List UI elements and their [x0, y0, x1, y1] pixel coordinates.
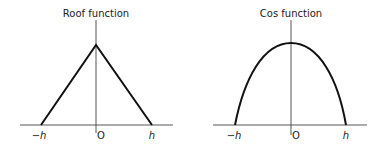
roof-function-curve: [41, 45, 152, 125]
cos-function-title: Cos function: [260, 8, 322, 19]
tick-h: h: [149, 130, 155, 141]
tick-minus-h: −h: [32, 130, 47, 141]
tick-origin: O: [97, 130, 105, 141]
tick-origin: O: [292, 130, 300, 141]
tick-h: h: [343, 130, 349, 141]
roof-function-panel: Roof function −h O h: [20, 8, 173, 141]
cos-function-curve: [235, 43, 346, 125]
roof-function-title: Roof function: [63, 8, 129, 19]
cos-function-panel: Cos function −h O h: [213, 8, 367, 141]
diagram-canvas: Roof function −h O h Cos function −h O h: [0, 0, 387, 147]
tick-minus-h: −h: [227, 130, 242, 141]
